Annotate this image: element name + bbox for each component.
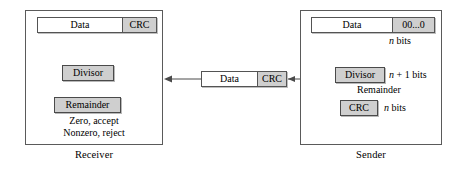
receiver-remainder-box: Remainder <box>54 97 121 113</box>
sender-divisor-box: Divisor <box>335 67 385 83</box>
sender-crc-box: CRC <box>340 100 378 116</box>
sender-frame: Data 00...0 <box>311 17 435 33</box>
receiver-frame: Data CRC <box>37 17 157 33</box>
sender-divisor-bits-note: n + 1 bits <box>389 69 427 81</box>
receiver-caption: Receiver <box>25 149 163 161</box>
sender-frame-data-cell: Data <box>312 18 392 32</box>
transmission-frame: Data CRC <box>201 71 287 87</box>
sender-caption: Sender <box>300 149 442 161</box>
sender-divisor-bits-suffix: + 1 bits <box>394 69 427 80</box>
sender-remainder-note: Remainder <box>357 84 401 96</box>
receiver-accept-note: Zero, accept <box>25 115 163 127</box>
receiver-frame-crc-cell: CRC <box>122 18 156 32</box>
sender-frame-zeros-cell: 00...0 <box>392 18 434 32</box>
sender-crc-bits-note: n bits <box>384 102 406 114</box>
transmission-crc-cell: CRC <box>257 72 286 86</box>
transmission-data-cell: Data <box>202 72 257 86</box>
receiver-reject-note: Nonzero, reject <box>25 127 163 139</box>
sender-to-wire-connector <box>288 76 300 82</box>
receiver-frame-data-cell: Data <box>38 18 122 32</box>
sender-nbits-top-note: n bits <box>389 35 411 47</box>
receiver-divisor-box: Divisor <box>62 65 114 81</box>
sender-nbits-top-suffix: bits <box>394 35 411 46</box>
wire-to-receiver-connector <box>164 76 201 83</box>
sender-crc-bits-suffix: bits <box>389 102 406 113</box>
crc-diagram: Data CRC Divisor Remainder Zero, accept … <box>0 0 462 176</box>
